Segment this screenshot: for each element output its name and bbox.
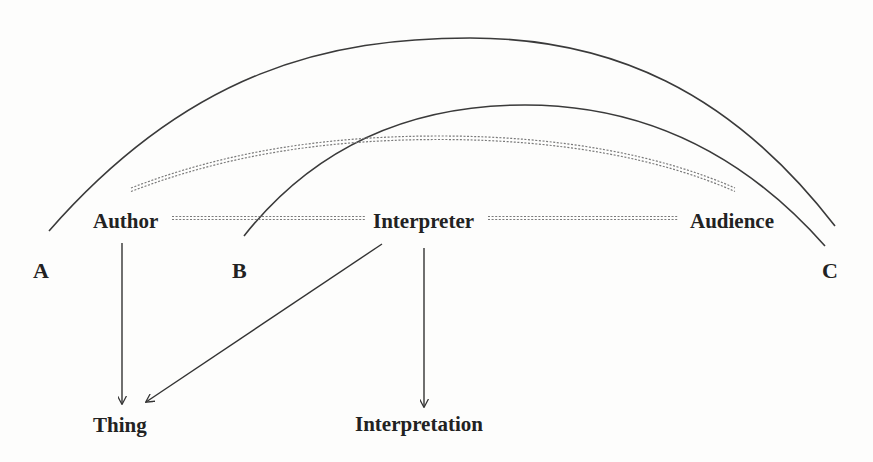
node-thing: Thing xyxy=(93,413,147,437)
marker-a: A xyxy=(33,258,49,283)
node-interpretation: Interpretation xyxy=(355,412,483,436)
marker-c: C xyxy=(822,258,838,283)
marker-b: B xyxy=(232,258,247,283)
dashed-link-interpreter-audience xyxy=(488,217,678,220)
node-interpreter: Interpreter xyxy=(373,209,474,233)
arrow-interpreter-to-thing xyxy=(146,244,382,402)
node-author: Author xyxy=(93,209,158,233)
arc-a-to-c xyxy=(49,38,835,231)
dashed-link-author-interpreter xyxy=(172,217,366,220)
diagram-canvas: Author Interpreter Audience Thing Interp… xyxy=(0,0,873,462)
node-audience: Audience xyxy=(690,209,774,233)
dashed-arc-author-audience xyxy=(131,136,735,192)
